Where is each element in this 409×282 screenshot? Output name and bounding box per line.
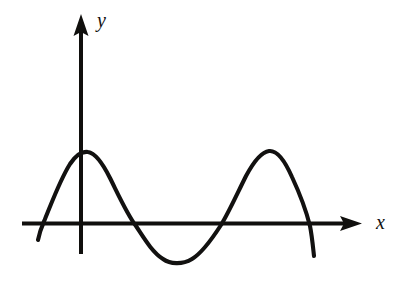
function-graph-svg <box>0 0 409 282</box>
y-axis-label: y <box>97 10 106 30</box>
x-axis-label: x <box>376 212 385 232</box>
figure-canvas: y x <box>0 0 409 282</box>
